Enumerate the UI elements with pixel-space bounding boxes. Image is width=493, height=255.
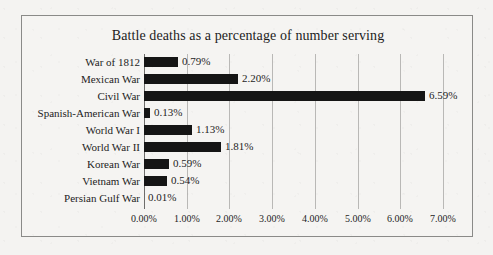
category-label: Civil War [22,88,140,105]
bar-row: 6.59% [144,88,474,105]
bar [144,57,178,67]
chart-frame: Battle deaths as a percentage of number … [21,15,473,237]
bar [144,125,192,135]
x-tick-label: 7.00% [430,213,456,224]
bar-row: 0.13% [144,105,474,122]
x-tick-label: 2.00% [216,213,242,224]
value-axis: 0.00%1.00%2.00%3.00%4.00%5.00%6.00%7.00% [144,213,474,229]
category-label: Mexican War [22,71,140,88]
x-tick-label: 5.00% [345,213,371,224]
x-tick-label: 3.00% [259,213,285,224]
bar-value-label: 0.01% [148,191,176,203]
bar-value-label: 0.54% [171,174,199,186]
bar-value-label: 0.79% [182,55,210,67]
x-tick-label: 6.00% [387,213,413,224]
bar-row: 0.54% [144,173,474,190]
category-label: Vietnam War [22,173,140,190]
bar [144,142,221,152]
bar-row: 0.79% [144,54,474,71]
bar [144,108,150,118]
bar-row: 0.01% [144,190,474,207]
bar [144,91,425,101]
category-label: Spanish-American War [22,105,140,122]
category-label: World War I [22,122,140,139]
bar-value-label: 0.59% [173,157,201,169]
bar-value-label: 6.59% [429,89,457,101]
chart-title: Battle deaths as a percentage of number … [22,28,474,44]
bar-value-label: 1.13% [196,123,224,135]
category-label: World War II [22,139,140,156]
bar [144,159,169,169]
bar-row: 0.59% [144,156,474,173]
category-label: Korean War [22,156,140,173]
category-label: War of 1812 [22,54,140,71]
category-label: Persian Gulf War [22,190,140,207]
bar-series: 0.79%2.20%6.59%0.13%1.13%1.81%0.59%0.54%… [144,54,474,209]
bar-value-label: 0.13% [154,106,182,118]
bar-row: 1.13% [144,122,474,139]
bar [144,176,167,186]
x-tick-label: 0.00% [131,213,157,224]
bar-row: 2.20% [144,71,474,88]
category-axis: War of 1812Mexican WarCivil WarSpanish-A… [22,54,140,209]
bar-row: 1.81% [144,139,474,156]
bar-value-label: 1.81% [225,140,253,152]
bar [144,74,238,84]
x-tick-label: 4.00% [302,213,328,224]
bar-value-label: 2.20% [242,72,270,84]
x-tick-label: 1.00% [174,213,200,224]
